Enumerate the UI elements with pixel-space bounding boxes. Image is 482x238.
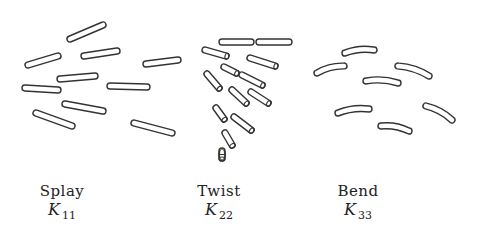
bend-name: Bend [298,182,418,200]
splay-rod [66,21,107,43]
splay-rod [24,52,61,68]
splay-rod [81,48,121,60]
twist-rods: θ [201,39,292,164]
twist-rod [230,113,255,134]
splay-rods [22,21,182,137]
splay-rod [62,101,107,115]
splay-rod [57,73,98,82]
twist-rod [256,39,292,45]
end-on-rod-theta: θ [217,146,226,164]
twist-rod [201,46,229,59]
splay-rod [22,85,61,93]
splay-rod [32,109,76,130]
twist-rod [220,63,240,77]
bend-label-group: Bend K33 [298,182,418,222]
bend-rod [378,121,413,135]
twist-rod [247,88,272,107]
twist-constant: K22 [159,200,279,222]
splay-rod [143,57,182,68]
twist-rod [212,104,228,123]
twist-name: Twist [159,182,279,200]
splay-constant: K11 [2,200,122,222]
bend-rod [342,45,378,57]
bend-rod [334,104,372,117]
splay-label-group: Splay K11 [2,182,122,222]
twist-rod [203,70,223,92]
bend-constant: K33 [298,200,418,222]
splay-rod [130,119,175,136]
twist-rod [246,54,279,70]
twist-rod [238,71,266,89]
splay-rod [107,83,150,90]
bend-rod [422,100,457,124]
splay-name: Splay [2,182,122,200]
twist-rod [219,39,254,45]
twist-label-group: Twist K22 [159,182,279,222]
bend-rod [363,76,401,86]
bend-rods [313,45,457,135]
twist-rod [228,86,250,107]
bend-rod [313,60,348,76]
bend-rod [394,60,433,79]
